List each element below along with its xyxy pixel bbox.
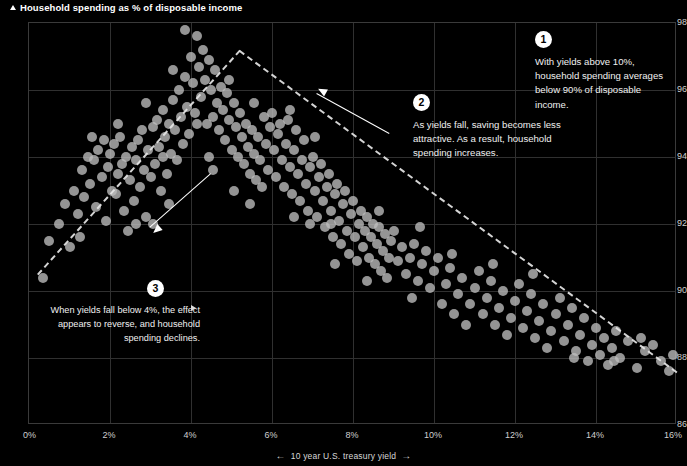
data-point — [243, 142, 253, 152]
data-point — [127, 142, 137, 152]
data-point — [530, 333, 540, 343]
data-point — [336, 239, 346, 249]
y-axis-tick-92: 92 — [665, 218, 687, 228]
data-point — [360, 226, 370, 236]
data-point — [362, 276, 372, 286]
data-point — [447, 249, 457, 259]
data-point — [607, 343, 617, 353]
data-point — [567, 303, 577, 313]
data-point — [235, 108, 245, 118]
data-point — [93, 145, 103, 155]
data-point — [192, 119, 202, 129]
data-point — [370, 259, 380, 269]
arrow-head-icon — [316, 85, 328, 96]
data-point — [332, 179, 342, 189]
data-point — [229, 186, 239, 196]
data-point — [407, 293, 417, 303]
gridline-horizontal — [29, 358, 675, 359]
data-point — [389, 226, 399, 236]
data-point — [150, 159, 160, 169]
trend-line-left-rising — [37, 50, 241, 276]
data-point — [490, 320, 500, 330]
data-point — [251, 175, 261, 185]
data-point — [437, 299, 447, 309]
annotation-3-text: When yields fall below 4%, the effect ap… — [51, 305, 200, 343]
data-point — [413, 276, 423, 286]
data-point — [79, 192, 89, 202]
data-point — [283, 115, 293, 125]
gridline-horizontal — [29, 157, 675, 158]
data-point — [538, 299, 548, 309]
x-axis-tick-10: 10% — [424, 430, 442, 440]
data-point — [113, 169, 123, 179]
data-point — [457, 273, 467, 283]
data-point — [445, 263, 455, 273]
data-point — [275, 119, 285, 129]
data-point — [303, 206, 313, 216]
annotation-3-badge: 3 — [147, 280, 164, 297]
data-point — [257, 182, 267, 192]
data-point — [522, 306, 532, 316]
data-point — [162, 169, 172, 179]
data-point — [310, 132, 320, 142]
data-point — [141, 212, 151, 222]
data-point — [139, 165, 149, 175]
data-point — [571, 346, 581, 356]
x-axis-tick-0: 0% — [23, 430, 36, 440]
data-point — [301, 179, 311, 189]
data-point — [227, 145, 237, 155]
data-point — [378, 246, 388, 256]
x-axis-title: ←10 year U.S. treasury yield→ — [0, 450, 687, 461]
data-point — [281, 139, 291, 149]
data-point — [358, 242, 368, 252]
data-point — [198, 45, 208, 55]
gridline-vertical — [434, 23, 435, 423]
y-axis-tick-86: 86 — [665, 419, 687, 429]
data-point — [579, 313, 589, 323]
data-point — [632, 363, 642, 373]
data-point — [208, 112, 218, 122]
data-point — [245, 169, 255, 179]
data-point — [486, 276, 496, 286]
x-axis-tick-12: 12% — [505, 430, 523, 440]
annotation-2-text: As yields fall, saving becomes less attr… — [413, 119, 561, 158]
x-axis-tick-8: 8% — [345, 430, 358, 440]
annotation-1-badge: 1 — [535, 31, 552, 48]
data-point — [376, 266, 386, 276]
data-point — [103, 162, 113, 172]
data-point — [338, 199, 348, 209]
annotation-2-badge: 2 — [413, 94, 430, 111]
data-point — [575, 330, 585, 340]
data-point — [168, 65, 178, 75]
data-point — [75, 232, 85, 242]
x-axis-tick-2: 2% — [102, 430, 115, 440]
data-point — [69, 186, 79, 196]
data-point — [305, 162, 315, 172]
annotation-3: 3 When yields fall below 4%, the effect … — [32, 280, 200, 345]
data-point — [289, 145, 299, 155]
data-point — [350, 232, 360, 242]
data-point — [465, 299, 475, 309]
chart-root: Household spending as % of disposable in… — [0, 0, 687, 466]
data-point — [314, 172, 324, 182]
data-point — [461, 320, 471, 330]
data-point — [346, 209, 356, 219]
data-point — [310, 186, 320, 196]
data-point — [285, 162, 295, 172]
data-point — [546, 326, 556, 336]
data-point — [158, 105, 168, 115]
data-point — [202, 119, 212, 129]
data-point — [380, 229, 390, 239]
data-point — [184, 129, 194, 139]
data-point — [316, 159, 326, 169]
data-point — [192, 31, 202, 41]
data-point — [133, 135, 143, 145]
data-point — [478, 309, 488, 319]
data-point — [115, 132, 125, 142]
data-point — [188, 78, 198, 88]
x-axis-tick-4: 4% — [183, 430, 196, 440]
data-point — [372, 239, 382, 249]
data-point — [330, 259, 340, 269]
data-point — [73, 209, 83, 219]
data-point — [135, 182, 145, 192]
